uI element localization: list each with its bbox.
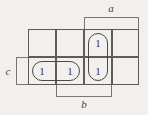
- axis-label-a: a: [101, 3, 121, 14]
- kmap-value-r0c2: 1: [88, 29, 108, 57]
- axis-label-b: b: [74, 99, 94, 110]
- axis-label-c: c: [2, 66, 14, 77]
- kmap-value-r1c0: 1: [32, 57, 52, 85]
- kmap-value-r1c3: [116, 57, 136, 85]
- kmap-value-r0c1: [60, 29, 80, 57]
- kmap-value-r1c2: 1: [88, 57, 108, 85]
- kmap-value-r1c1: 1: [60, 57, 80, 85]
- kmap-value-r0c3: [116, 29, 136, 57]
- bracket-c: [16, 57, 28, 85]
- bracket-b: [56, 85, 112, 97]
- karnaugh-map-diagram: a c b 1 1 1 1: [0, 0, 148, 115]
- bracket-a: [84, 17, 139, 29]
- kmap-value-r0c0: [32, 29, 52, 57]
